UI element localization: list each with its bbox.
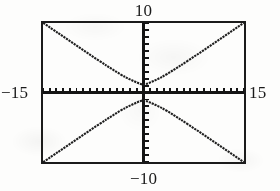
xmin-label: −15 xyxy=(1,84,28,101)
graph-svg xyxy=(43,23,244,162)
ymax-label: 10 xyxy=(0,2,280,19)
figure-canvas: 10 −10 −15 15 xyxy=(0,0,280,191)
ymin-label: −10 xyxy=(0,170,280,187)
plot-area xyxy=(43,23,244,162)
xmax-label: 15 xyxy=(249,84,266,101)
viewing-window-frame xyxy=(41,21,246,164)
